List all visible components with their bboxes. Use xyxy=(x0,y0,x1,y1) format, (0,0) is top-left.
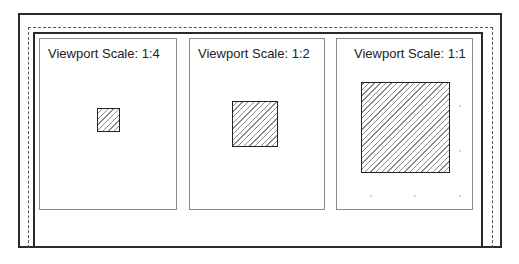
viewport-label: Viewport Scale: 1:1 xyxy=(354,46,466,61)
viewport-scale-1-4[interactable]: Viewport Scale: 1:4 xyxy=(39,38,177,210)
viewport-label: Viewport Scale: 1:2 xyxy=(198,46,310,61)
viewport-label: Viewport Scale: 1:4 xyxy=(48,46,160,61)
hatched-square xyxy=(361,82,450,173)
grid-dot xyxy=(414,195,416,197)
grid-dot xyxy=(459,195,461,197)
hatched-square xyxy=(232,101,278,147)
viewport-scale-1-2[interactable]: Viewport Scale: 1:2 xyxy=(189,38,325,210)
grid-dot xyxy=(459,150,461,152)
hatched-square xyxy=(97,108,120,132)
viewport-scale-1-1[interactable]: Viewport Scale: 1:1 xyxy=(336,38,473,210)
grid-dot xyxy=(459,105,461,107)
grid-dot xyxy=(370,195,372,197)
